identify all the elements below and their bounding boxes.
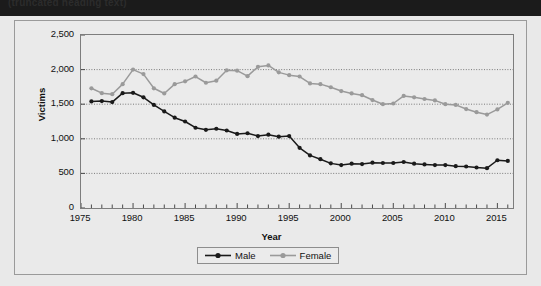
chart-legend: Male Female [197, 247, 339, 264]
x-tick-label: 1995 [268, 212, 308, 223]
legend-item-female[interactable]: Female [270, 250, 332, 261]
x-tick-label: 2015 [476, 212, 516, 223]
x-tick-label: 2000 [320, 212, 360, 223]
y-tick-label: 500 [30, 166, 74, 177]
chart-panel: Victims Year Male Female 05001,0001,5002… [14, 20, 527, 275]
legend-label-male: Male [235, 250, 256, 261]
x-tick-label: 1990 [216, 212, 256, 223]
x-axis-title: Year [15, 231, 528, 242]
y-tick-label: 1,000 [30, 132, 74, 143]
y-tick-label: 2,000 [30, 63, 74, 74]
y-tick-label: 2,500 [30, 28, 74, 39]
truncated-title-bar: (truncated heading text) [0, 0, 541, 16]
plot-svg [81, 35, 513, 208]
legend-item-male[interactable]: Male [205, 250, 256, 261]
y-tick-label: 0 [30, 201, 74, 212]
x-tick-label: 1985 [164, 212, 204, 223]
plot-area [80, 34, 514, 209]
legend-label-female: Female [300, 250, 332, 261]
series-male [89, 91, 510, 171]
series-female [89, 63, 510, 116]
legend-line-female-icon [270, 251, 296, 260]
x-tick-label: 1975 [60, 212, 100, 223]
x-tick-label: 2010 [424, 212, 464, 223]
x-tick-label: 2005 [372, 212, 412, 223]
legend-line-male-icon [205, 251, 231, 260]
x-tick-label: 1980 [112, 212, 152, 223]
truncated-title-text: (truncated heading text) [8, 0, 127, 8]
y-tick-label: 1,500 [30, 97, 74, 108]
